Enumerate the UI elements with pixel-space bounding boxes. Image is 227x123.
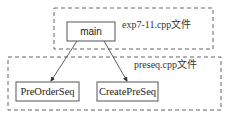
node-preorderseq: PreOrderSeq (16, 82, 79, 101)
node-createpreseq-label: CreatePreSeq (99, 86, 157, 97)
edge-main-to-createpreseq-arrow (104, 41, 127, 81)
node-createpreseq: CreatePreSeq (97, 82, 158, 101)
node-preorderseq-label: PreOrderSeq (20, 86, 75, 97)
group-exp-label: exp7-11.cpp文件 (122, 18, 191, 30)
node-main: main (67, 22, 115, 41)
call-graph-diagram: exp7-11.cpp文件 preseq.cpp文件 main PreOrder… (0, 0, 227, 123)
edge-main-to-preorderseq-arrow (51, 41, 77, 81)
group-preseq-label: preseq.cpp文件 (134, 58, 197, 70)
node-main-label: main (80, 26, 102, 37)
